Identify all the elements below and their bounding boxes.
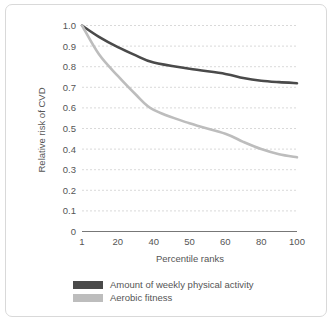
legend: Amount of weekly physical activityAerobi… — [73, 279, 254, 303]
data-series-group — [82, 26, 297, 158]
x-axis-title: Percentile ranks — [156, 253, 224, 264]
y-axis-tick-label: 0.4 — [63, 144, 76, 155]
legend-swatch — [73, 281, 103, 289]
y-axis-tick-label: 0.3 — [63, 164, 76, 175]
figure-container: 00.10.20.30.40.50.60.70.80.91.0 12040506… — [0, 0, 332, 322]
series-line — [82, 26, 297, 84]
y-axis-tick-label: 0.7 — [63, 82, 76, 93]
y-axis-tick-label: 0.5 — [63, 123, 76, 134]
gridlines-group — [82, 26, 297, 211]
y-axis-tick-label: 0 — [71, 226, 76, 237]
legend-label: Amount of weekly physical activity — [110, 279, 254, 290]
x-axis-tick-label: 80 — [256, 236, 267, 247]
x-axis-tick-labels: 12040506080100 — [79, 236, 305, 247]
legend-label: Aerobic fitness — [110, 292, 173, 303]
x-axis-tick-label: 1 — [79, 236, 84, 247]
legend-swatch — [73, 294, 103, 302]
x-axis-tick-label: 40 — [148, 236, 159, 247]
y-axis-tick-label: 0.6 — [63, 102, 76, 113]
y-axis-tick-label: 0.9 — [63, 41, 76, 52]
y-axis-tick-label: 1.0 — [63, 20, 76, 31]
y-axis-tick-label: 0.2 — [63, 185, 76, 196]
x-axis-tick-label: 100 — [289, 236, 305, 247]
x-axis-tick-label: 20 — [113, 236, 124, 247]
y-axis-tick-labels: 00.10.20.30.40.50.60.70.80.91.0 — [63, 20, 76, 237]
chart-canvas: 00.10.20.30.40.50.60.70.80.91.0 12040506… — [0, 0, 332, 322]
y-axis-tick-label: 0.1 — [63, 205, 76, 216]
x-axis-tick-label: 60 — [220, 236, 231, 247]
y-axis-tick-label: 0.8 — [63, 61, 76, 72]
y-axis-title: Relative risk of CVD — [36, 87, 47, 172]
x-axis-tick-label: 50 — [184, 236, 195, 247]
